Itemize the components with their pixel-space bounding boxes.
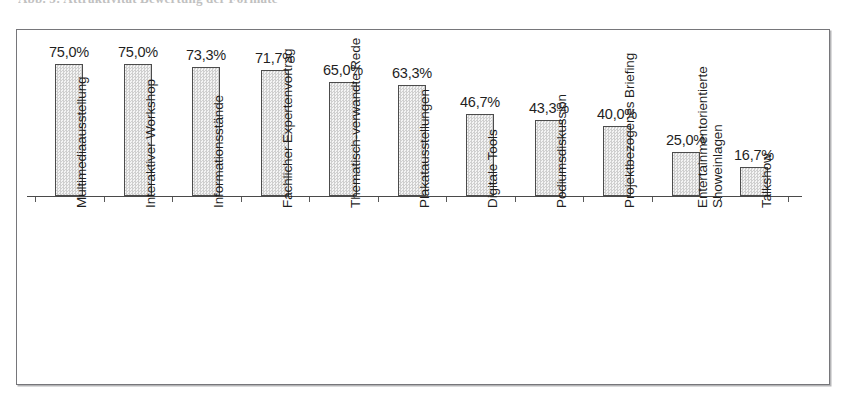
axis-tick-11 <box>720 197 721 202</box>
bar-value-label-5: 65,0% <box>313 62 373 78</box>
axis-tick-1 <box>35 197 36 202</box>
bar-value-label-6: 63,3% <box>382 65 442 81</box>
axis-tick-6 <box>378 197 379 202</box>
category-label-2: Interaktiver Workshop <box>143 79 158 208</box>
axis-tick-2 <box>104 197 105 202</box>
axis-tick-4 <box>241 197 242 202</box>
bar-value-label-4: 71,7% <box>245 50 305 66</box>
figure-caption-strip: Abb. 5: Attraktivität Bewertung der Form… <box>0 0 846 14</box>
category-label-10: Entertainmentorientierte Showeinlagen <box>695 66 725 208</box>
category-label-11: Talkshow <box>759 153 774 208</box>
bar-chart-plot-area: 75,0%Multimediaausstellung75,0%Interakti… <box>17 30 831 386</box>
axis-tick-10 <box>652 197 653 202</box>
axis-tick-3 <box>172 197 173 202</box>
bar-value-label-7: 46,7% <box>450 94 510 110</box>
bar-value-label-9: 40,0% <box>587 106 647 122</box>
axis-tick-end <box>788 197 789 202</box>
figure-frame: 75,0%Multimediaausstellung75,0%Interakti… <box>16 29 830 385</box>
bar-value-label-1: 75,0% <box>39 44 99 60</box>
axis-tick-8 <box>515 197 516 202</box>
bar-value-label-2: 75,0% <box>108 44 168 60</box>
axis-tick-7 <box>446 197 447 202</box>
category-label-4: Fachlicher Expertenvortrag <box>280 49 295 208</box>
category-label-1: Multimediaausstellung <box>74 77 89 208</box>
axis-tick-9 <box>583 197 584 202</box>
category-label-9: Projektbezogenes Briefing <box>622 53 637 208</box>
bar-value-label-8: 43,3% <box>519 100 579 116</box>
category-label-5: Thematisch-verwandte Rede <box>348 38 363 208</box>
figure-caption: Abb. 5: Attraktivität Bewertung der Form… <box>18 0 278 7</box>
bar-value-label-3: 73,3% <box>176 47 236 63</box>
category-label-7: Digitale Tools <box>485 129 500 208</box>
category-label-3: Informationsstände <box>211 95 226 208</box>
axis-tick-5 <box>309 197 310 202</box>
category-label-8: Podiumsdiskussion <box>554 94 569 208</box>
bar-value-label-11: 16,7% <box>724 147 784 163</box>
category-label-6: Plakatausstellungen <box>417 89 432 208</box>
